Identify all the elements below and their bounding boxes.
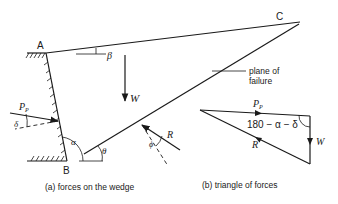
point-c-label: C: [276, 11, 283, 22]
w-arrowhead: [307, 138, 313, 145]
caption-a: (a) forces on the wedge: [45, 182, 135, 192]
plane-of-failure-label-2: failure: [249, 76, 272, 86]
beta-label: β: [106, 50, 112, 61]
point-b-label: B: [63, 165, 70, 176]
reaction-force-arrow: [142, 125, 180, 150]
plane-normal-dashed: [142, 125, 168, 166]
ground-surface-line: [46, 22, 300, 53]
theta-label: θ: [102, 146, 107, 156]
wall-normal-dashed: [15, 121, 58, 129]
triangle-r-label: R: [251, 139, 258, 150]
pp-arrowhead: [255, 110, 262, 116]
triangle-w-label: W: [316, 136, 326, 147]
delta-label: δ: [14, 119, 19, 129]
angle-arc: [299, 115, 310, 127]
retaining-wall-line: [46, 53, 67, 161]
alpha-label: α: [71, 137, 76, 147]
caption-b: (b) triangle of forces: [202, 180, 278, 190]
passive-force-label: PP: [18, 101, 29, 113]
hatching-top: [26, 53, 45, 58]
hatching-bottom: [31, 156, 64, 161]
reaction-label: R: [166, 129, 173, 140]
triangle-pp-label: PP: [252, 98, 263, 110]
triangle-angle-label: 180 − α − δ: [247, 119, 298, 130]
hatching-wall: [44, 62, 65, 153]
weight-label: W: [130, 92, 140, 104]
point-a-label: A: [37, 40, 44, 51]
failure-plane-line: [84, 24, 299, 154]
phi-label: ϕ: [149, 140, 153, 149]
plane-of-failure-label-1: plane of: [249, 66, 280, 76]
